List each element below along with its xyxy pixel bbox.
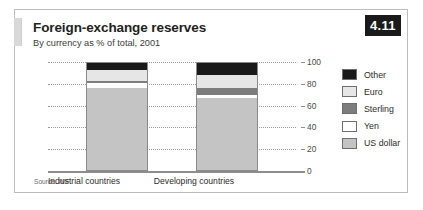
legend-swatch-yen — [342, 121, 357, 132]
y-axis-tick-label: 20 — [307, 144, 316, 154]
y-axis-tick-mark — [301, 127, 305, 128]
stacked-bar — [86, 62, 148, 171]
legend-label: Yen — [364, 121, 379, 131]
legend-item: Euro — [342, 83, 412, 100]
bar-segment-euro — [197, 75, 257, 88]
legend-label: Euro — [364, 87, 383, 97]
y-axis-tick-label: 0 — [307, 166, 312, 176]
y-axis-tick-label: 60 — [307, 101, 316, 111]
legend-swatch-euro — [342, 86, 357, 97]
legend-swatch-other — [342, 69, 357, 80]
legend-item: Other — [342, 66, 412, 83]
y-axis-tick-mark — [301, 149, 305, 150]
legend-item: US dollar — [342, 135, 412, 152]
stacked-bar — [196, 62, 258, 171]
y-axis-tick-label: 80 — [307, 79, 316, 89]
legend-label: US dollar — [364, 138, 400, 148]
plot-area — [48, 62, 296, 171]
bar-segment-us-dollar — [197, 98, 257, 170]
figure-panel: 4.11 Foreign-exchange reserves By curren… — [14, 9, 408, 193]
bar-segment-other — [197, 63, 257, 75]
bar-segment-euro — [87, 70, 147, 81]
bar-segment-other — [87, 63, 147, 70]
legend-item: Yen — [342, 118, 412, 135]
chart-legend: OtherEuroSterlingYenUS dollar — [342, 66, 412, 152]
legend-swatch-us-dollar — [342, 138, 357, 149]
panel-left-tab — [14, 18, 22, 46]
y-axis-tick-mark — [301, 171, 305, 172]
x-axis-line — [48, 171, 305, 173]
x-axis-category-label: Developing countries — [134, 176, 254, 186]
x-axis-category-label: Industrial countries — [24, 176, 144, 186]
y-axis-tick-label: 40 — [307, 122, 316, 132]
y-axis-tick-mark — [301, 84, 305, 85]
y-axis-tick-mark — [301, 106, 305, 107]
legend-swatch-sterling — [342, 103, 357, 114]
legend-label: Sterling — [364, 104, 394, 114]
y-axis-tick-label: 100 — [307, 57, 321, 67]
figure-subtitle: By currency as % of total, 2001 — [33, 38, 160, 48]
figure-title: Foreign-exchange reserves — [33, 20, 206, 35]
figure-number-badge: 4.11 — [365, 15, 401, 36]
y-axis-tick-mark — [301, 62, 305, 63]
legend-item: Sterling — [342, 100, 412, 117]
legend-label: Other — [364, 70, 386, 80]
bar-segment-us-dollar — [87, 88, 147, 170]
bar-segment-sterling — [197, 88, 257, 95]
